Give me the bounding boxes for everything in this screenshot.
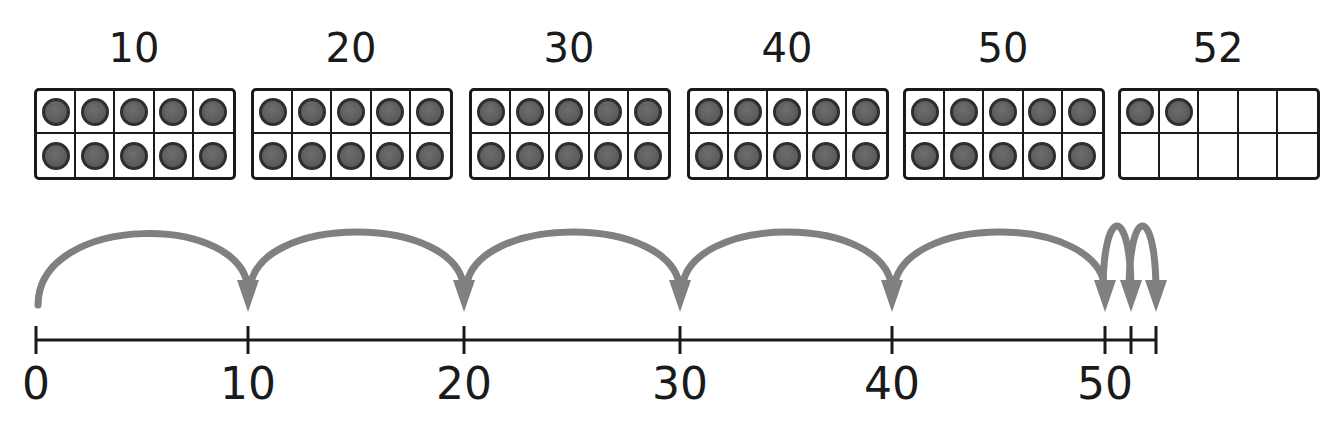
- ten-frame-cell: [590, 91, 629, 134]
- ten-frame-cell: [76, 91, 115, 134]
- counter-icon: [1165, 98, 1193, 126]
- tick-label: 10: [220, 362, 276, 406]
- counter-icon: [516, 142, 544, 170]
- counter-icon: [989, 142, 1017, 170]
- ten-frame-cell: [1199, 91, 1238, 134]
- frame-label: 30: [469, 28, 669, 68]
- ten-frame-cell: [332, 91, 371, 134]
- counter-icon: [989, 98, 1017, 126]
- jump-arrow: [466, 232, 680, 292]
- ten-frame-cell: [37, 134, 76, 177]
- frame-label: 40: [687, 28, 887, 68]
- ten-frame-cell: [115, 91, 154, 134]
- counter-icon: [376, 98, 404, 126]
- counter-icon: [477, 98, 505, 126]
- counter-icon: [81, 98, 109, 126]
- ten-frame: [1118, 88, 1320, 180]
- counter-icon: [259, 98, 287, 126]
- counter-icon: [1028, 98, 1056, 126]
- counter-icon: [159, 98, 187, 126]
- counter-icon: [1068, 98, 1096, 126]
- counter-icon: [734, 142, 762, 170]
- number-line-axis: [36, 326, 1156, 354]
- counter-icon: [259, 142, 287, 170]
- ten-frame-cell: [690, 134, 729, 177]
- ten-frame-cell: [1121, 91, 1160, 134]
- counter-icon: [376, 142, 404, 170]
- counter-icon: [594, 142, 622, 170]
- ten-frame-cell: [1024, 91, 1063, 134]
- tick-label: 30: [652, 362, 708, 406]
- counter-icon: [199, 142, 227, 170]
- ten-frame-cell: [194, 91, 233, 134]
- counter-icon: [812, 142, 840, 170]
- ten-frame-cell: [254, 134, 293, 177]
- counter-icon: [852, 98, 880, 126]
- counter-icon: [81, 142, 109, 170]
- ten-frame-cell: [293, 134, 332, 177]
- ten-frame-cell: [729, 91, 768, 134]
- ten-frame-cell: [550, 91, 589, 134]
- ten-frame-cell: [76, 134, 115, 177]
- jump-arrow: [894, 232, 1105, 292]
- ten-frame-cell: [332, 134, 371, 177]
- ten-frame-cell: [629, 134, 668, 177]
- ten-frame-cell: [155, 134, 194, 177]
- counter-icon: [1068, 142, 1096, 170]
- ten-frame-cell: [472, 91, 511, 134]
- ten-frame-cell: [906, 134, 945, 177]
- counter-icon: [773, 142, 801, 170]
- ten-frame-cell: [372, 134, 411, 177]
- counter-icon: [773, 98, 801, 126]
- ten-frame-cell: [293, 91, 332, 134]
- ten-frame: [34, 88, 236, 180]
- ten-frame-cell: [1121, 134, 1160, 177]
- ten-frame: [251, 88, 453, 180]
- counter-icon: [852, 142, 880, 170]
- counter-icon: [950, 98, 978, 126]
- jump-arrows: [38, 226, 1167, 312]
- ten-frame: [687, 88, 889, 180]
- ten-frame-cell: [194, 134, 233, 177]
- ten-frame-cell: [984, 91, 1023, 134]
- counter-icon: [695, 98, 723, 126]
- ten-frame-cell: [254, 91, 293, 134]
- ten-frame-cell: [690, 91, 729, 134]
- frame-label: 52: [1118, 28, 1318, 68]
- ten-frame-cell: [768, 91, 807, 134]
- counter-icon: [634, 98, 662, 126]
- ten-frame-cell: [1278, 91, 1317, 134]
- counter-icon: [1126, 98, 1154, 126]
- ten-frame-cell: [1239, 134, 1278, 177]
- counter-icon: [594, 98, 622, 126]
- ten-frame-cell: [1160, 134, 1199, 177]
- counter-icon: [120, 98, 148, 126]
- ten-frame-cell: [37, 91, 76, 134]
- ten-frame-cell: [155, 91, 194, 134]
- ten-frame-cell: [808, 134, 847, 177]
- ten-frame-cell: [945, 91, 984, 134]
- number-line: [0, 195, 1336, 365]
- frame-label: 50: [903, 28, 1103, 68]
- counter-icon: [950, 142, 978, 170]
- ten-frame: [469, 88, 671, 180]
- ten-frame-cell: [411, 134, 450, 177]
- ten-frame-cell: [1063, 91, 1102, 134]
- counter-icon: [298, 98, 326, 126]
- ten-frame-cell: [411, 91, 450, 134]
- tick-label: 50: [1077, 362, 1133, 406]
- ten-frame-cell: [1199, 134, 1238, 177]
- ten-frame-cell: [115, 134, 154, 177]
- counter-icon: [337, 98, 365, 126]
- ten-frame-cell: [1239, 91, 1278, 134]
- ten-frame-cell: [729, 134, 768, 177]
- frame-label: 10: [34, 28, 234, 68]
- ten-frame-cell: [768, 134, 807, 177]
- jump-arrow: [38, 234, 248, 305]
- ten-frame-cell: [1278, 134, 1317, 177]
- ten-frame-cell: [1160, 91, 1199, 134]
- counter-icon: [695, 142, 723, 170]
- counter-icon: [42, 98, 70, 126]
- ten-frame: [903, 88, 1105, 180]
- counter-icon: [911, 98, 939, 126]
